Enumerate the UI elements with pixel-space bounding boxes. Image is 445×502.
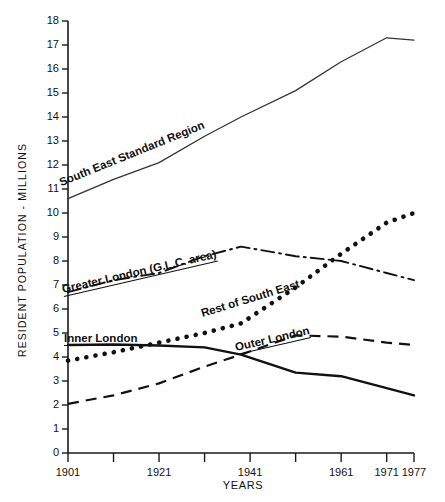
y-axis-title: RESIDENT POPULATION - MILLIONS [16, 143, 28, 357]
chart-plot-area: 1817161514131211109876543210 19011921194… [0, 0, 445, 502]
x-axis-title: YEARS [223, 479, 263, 491]
x-tick-label: 1941 [238, 466, 262, 478]
y-tick-label: 14 [47, 110, 59, 122]
x-tick-label: 1971 [374, 466, 398, 478]
x-tick-label: 1961 [329, 466, 353, 478]
y-tick-label: 13 [47, 134, 59, 146]
y-tick-label: 9 [53, 230, 59, 242]
y-tick-label: 17 [47, 38, 59, 50]
y-tick-label: 18 [47, 14, 59, 26]
x-axis: 190119211941196119711977 [56, 453, 426, 478]
y-tick-label: 4 [53, 350, 59, 362]
series-label-inner-london: Inner London [64, 332, 137, 346]
series-line-0 [68, 38, 414, 199]
y-tick-label: 0 [53, 446, 59, 458]
y-tick-label: 8 [53, 254, 59, 266]
y-tick-label: 10 [47, 206, 59, 218]
y-tick-label: 7 [53, 278, 59, 290]
x-tick-label: 1977 [402, 466, 426, 478]
y-tick-label: 15 [47, 86, 59, 98]
y-tick-label: 1 [53, 422, 59, 434]
y-axis: 1817161514131211109876543210 [47, 14, 68, 458]
y-tick-label: 12 [47, 158, 59, 170]
y-tick-label: 2 [53, 398, 59, 410]
y-tick-label: 3 [53, 374, 59, 386]
y-tick-label: 5 [53, 326, 59, 338]
y-tick-label: 16 [47, 62, 59, 74]
x-tick-label: 1901 [56, 466, 80, 478]
population-line-chart: 1817161514131211109876543210 19011921194… [0, 0, 445, 502]
x-tick-label: 1921 [147, 466, 171, 478]
y-tick-label: 11 [48, 182, 59, 194]
y-tick-label: 6 [53, 302, 59, 314]
